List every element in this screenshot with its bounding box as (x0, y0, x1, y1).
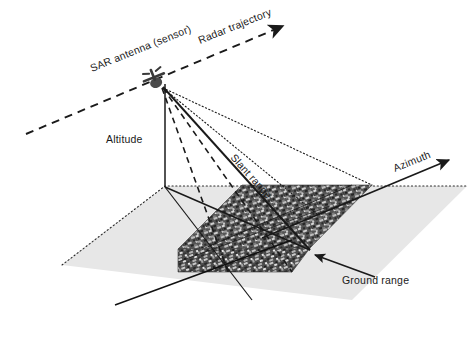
label-radar-trajectory: Radar trajectory (196, 5, 273, 46)
label-altitude: Altitude (106, 133, 143, 145)
beam-edge-far-dotted (163, 88, 372, 185)
label-ground-range: Ground range (342, 274, 409, 286)
sar-geometry-diagram: SAR antenna (sensor) Radar trajectory Al… (0, 0, 471, 362)
sar-geometry-canvas: SAR antenna (sensor) Radar trajectory Al… (0, 0, 471, 362)
label-sar-antenna: SAR antenna (sensor) (88, 22, 193, 74)
